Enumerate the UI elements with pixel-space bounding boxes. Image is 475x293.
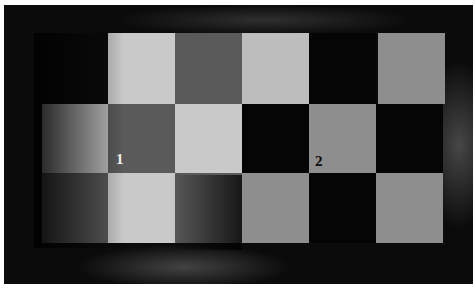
square-label-2: 2 (315, 154, 323, 169)
square-r1-c5 (309, 33, 376, 104)
checkerboard-photo: 1 2 (4, 5, 473, 284)
square-r3-c3 (175, 173, 242, 243)
square-r2-c4 (242, 104, 309, 173)
checkerboard: 1 2 (4, 5, 473, 284)
square-r3-c5 (309, 173, 376, 243)
square-r3-c6 (376, 173, 443, 243)
square-r2-c6 (376, 104, 443, 173)
square-r1-c6 (378, 33, 445, 104)
square-r3-c4 (242, 173, 309, 243)
square-r1-c2 (108, 33, 175, 104)
square-r1-c4 (242, 33, 309, 104)
square-label-1: 1 (116, 152, 124, 167)
square-r1-c3 (175, 33, 242, 104)
square-r2-c1 (42, 104, 109, 173)
cropped-caption (0, 285, 475, 293)
square-r2-c3 (175, 104, 242, 173)
square-r3-c1 (42, 173, 109, 243)
square-r3-c2 (108, 173, 175, 243)
